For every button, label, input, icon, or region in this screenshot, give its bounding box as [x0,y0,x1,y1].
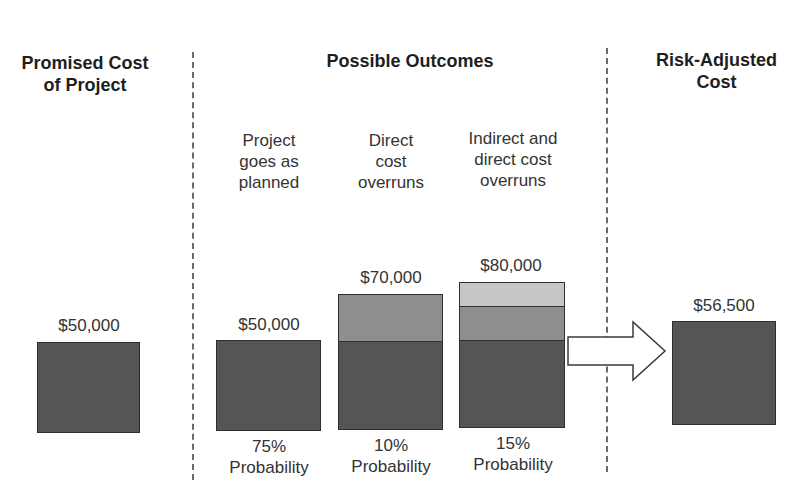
divider-right [606,48,608,472]
outcome-1-desc-line: planned [206,172,332,193]
outcome-2-desc-line: cost [328,151,454,172]
risk-adjusted-header-line1: Risk-Adjusted [630,49,803,71]
outcome-2-probability-pct: 10% [328,435,454,456]
outcome-1-probability: 75% Probability [206,436,332,478]
risk-adjusted-header: Risk-Adjusted Cost [630,49,803,93]
outcome-3-desc-line: direct cost [448,149,578,170]
risk-adjusted-header-line2: Cost [630,71,803,93]
outcome-1-probability-pct: 75% [206,436,332,457]
outcome-2-bar [338,294,443,430]
outcome-1-bar [216,340,321,431]
outcome-3-probability: 15% Probability [448,433,578,475]
outcome-3-desc-line: Indirect and [448,128,578,149]
risk-adjusted-bar-label: $56,500 [665,296,783,316]
cropped-title-fragment [0,0,803,4]
outcome-3-desc-line: overruns [448,170,578,191]
promised-cost-header: Promised Cost of Project [0,52,170,96]
risk-adjusted-cost-bar [672,321,776,425]
outcome-2-probability-word: Probability [328,456,454,477]
outcome-3-base-segment [460,340,564,427]
outcome-2-desc-line: Direct [328,130,454,151]
outcome-3-probability-word: Probability [448,454,578,475]
promised-bar-label: $50,000 [30,316,148,336]
outcome-3-direct-overrun-segment [460,306,564,340]
promised-cost-header-line2: of Project [0,74,170,96]
outcome-2-base-segment [339,341,442,429]
outcome-1-value-label: $50,000 [210,315,328,335]
divider-left [192,52,194,480]
outcome-1-desc-line: Project [206,130,332,151]
outcome-1-probability-word: Probability [206,457,332,478]
outcome-3-probability-pct: 15% [448,433,578,454]
promised-cost-header-line1: Promised Cost [0,52,170,74]
outcome-3-description: Indirect and direct cost overruns [448,128,578,191]
outcome-1-desc-line: goes as [206,151,332,172]
outcome-3-value-label: $80,000 [452,256,570,276]
outcome-3-bar [459,282,565,428]
promised-cost-bar [37,342,140,433]
right-arrow-icon [566,320,668,382]
possible-outcomes-header: Possible Outcomes [300,50,520,72]
outcome-2-direct-overrun-segment [339,295,442,341]
outcome-2-desc-line: overruns [328,172,454,193]
outcome-2-probability: 10% Probability [328,435,454,477]
outcome-3-indirect-overrun-segment [460,283,564,306]
outcome-2-description: Direct cost overruns [328,130,454,193]
outcome-1-description: Project goes as planned [206,130,332,193]
outcome-2-value-label: $70,000 [332,268,450,288]
